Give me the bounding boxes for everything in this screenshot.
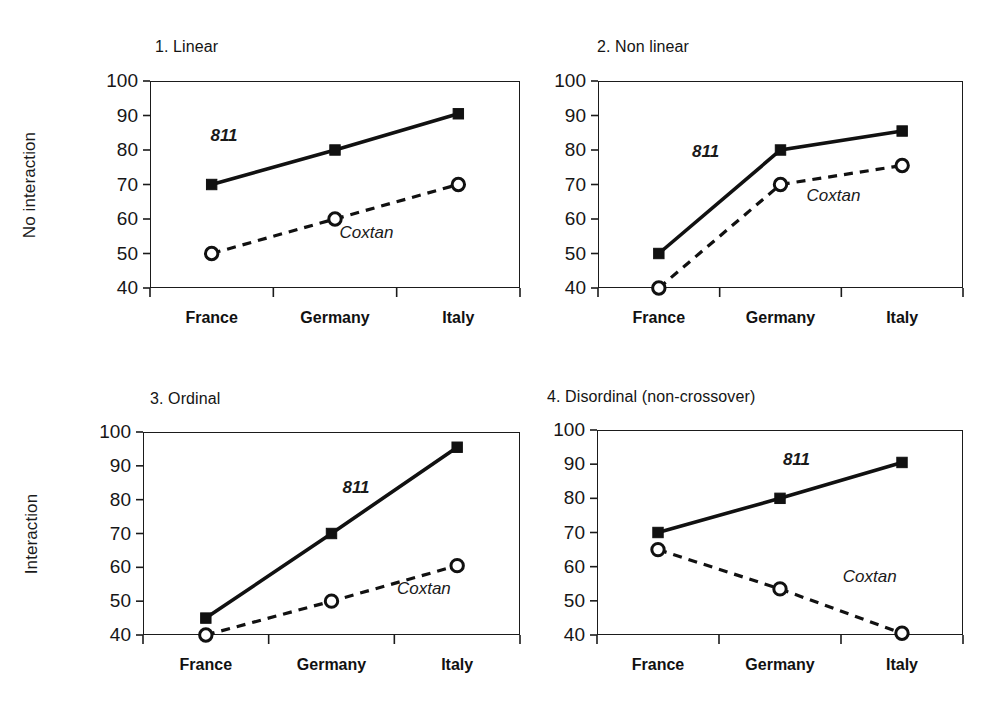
y-axis-tick-label: 80 [539, 487, 585, 509]
y-axis-tick-label: 70 [539, 522, 585, 544]
data-point-marker-circle [652, 543, 664, 555]
data-point-marker-square [897, 457, 907, 467]
data-point-marker-square [775, 493, 785, 503]
y-axis-tick-label: 40 [539, 624, 585, 646]
chart-panel-4: 4. Disordinal (non-crossover)40506070809… [0, 0, 1003, 723]
plot-graphics [0, 0, 1003, 723]
y-axis-tick-label: 60 [539, 556, 585, 578]
data-point-marker-circle [774, 583, 786, 595]
series-annotation-coxtan: Coxtan [843, 567, 897, 587]
interaction-plots-figure: No interaction Interaction 1. Linear4050… [0, 0, 1003, 723]
x-axis-category-germany: Germany [745, 656, 814, 674]
y-axis-tick-label: 100 [539, 419, 585, 441]
x-axis-category-france: France [632, 656, 684, 674]
y-axis-tick-label: 50 [539, 590, 585, 612]
data-point-marker-square [653, 527, 663, 537]
x-axis-category-italy: Italy [886, 656, 918, 674]
y-axis-tick-label: 90 [539, 453, 585, 475]
data-point-marker-circle [896, 627, 908, 639]
series-annotation-811: 811 [783, 450, 810, 470]
